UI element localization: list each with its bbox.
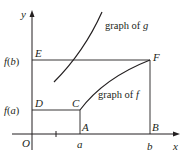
- curve-f: [80, 60, 150, 110]
- y-tick-label-fa: f(a): [4, 105, 20, 117]
- graph-diagram: y x O E F D C A B a b f(b) f(a) graph of…: [0, 0, 192, 158]
- x-axis-label: x: [172, 140, 178, 152]
- origin-label: O: [22, 137, 30, 149]
- y-tick-label-fb: f(b): [4, 56, 20, 68]
- x-tick-label-a: a: [77, 138, 83, 150]
- point-label-B: B: [152, 121, 159, 133]
- point-label-D: D: [34, 97, 43, 109]
- curve-g: [54, 12, 102, 82]
- curve-label-g: graph of g: [105, 20, 148, 31]
- point-label-C: C: [72, 97, 80, 109]
- point-label-F: F: [152, 51, 160, 63]
- y-axis-label: y: [20, 8, 26, 20]
- x-tick-label-b: b: [147, 140, 153, 152]
- point-label-E: E: [34, 47, 42, 59]
- x-axis-arrow-icon: [173, 132, 180, 137]
- curve-label-f: graph of f: [98, 89, 141, 100]
- y-axis-arrow-icon: [30, 10, 35, 17]
- point-label-A: A: [81, 121, 89, 133]
